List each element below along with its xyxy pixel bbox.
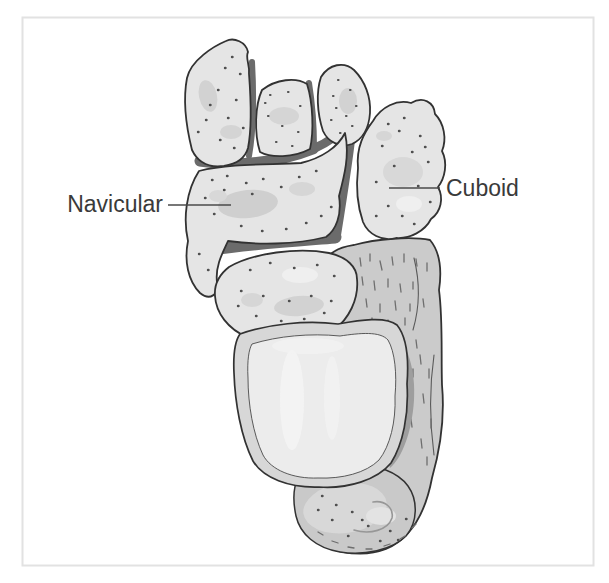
anatomy-figure-panel: Navicular Cuboid (0, 0, 609, 583)
tarsal-bones-illustration: Navicular Cuboid (0, 0, 609, 583)
navicular-label: Navicular (67, 191, 163, 217)
intermediate-cuneiform-bone (256, 80, 312, 156)
talus-trochlea-bone (234, 320, 408, 488)
cuboid-label: Cuboid (446, 175, 519, 201)
